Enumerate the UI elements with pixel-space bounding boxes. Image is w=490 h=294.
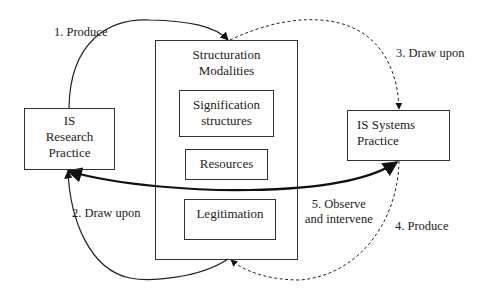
label-line: Practice: [357, 133, 415, 149]
label-line: Research: [24, 129, 115, 145]
is-systems-practice-label: IS Systems Practice: [357, 117, 415, 149]
label-line: 5. Observe: [305, 197, 373, 212]
label-line: Practice: [24, 145, 115, 161]
title-line: Modalities: [155, 63, 298, 79]
resources-label: Resources: [185, 156, 268, 172]
is-research-practice-label: IS Research Practice: [24, 113, 115, 161]
edge-label-4: 4. Produce: [395, 219, 448, 234]
edge-label-5: 5. Observe and intervene: [305, 197, 373, 227]
label-line: structures: [179, 113, 274, 129]
label-line: and intervene: [305, 212, 373, 227]
signification-structures-label: Signification structures: [179, 97, 274, 129]
structuration-modalities-title: Structuration Modalities: [155, 47, 298, 79]
label-line: IS: [24, 113, 115, 129]
edge-label-1: 1. Produce: [54, 25, 107, 40]
edge-label-2: 2. Draw upon: [72, 206, 140, 221]
edge-label-3: 3. Draw upon: [396, 46, 464, 61]
label-line: IS Systems: [357, 117, 415, 133]
label-line: Signification: [179, 97, 274, 113]
title-line: Structuration: [155, 47, 298, 63]
legitimation-label: Legitimation: [184, 206, 276, 222]
